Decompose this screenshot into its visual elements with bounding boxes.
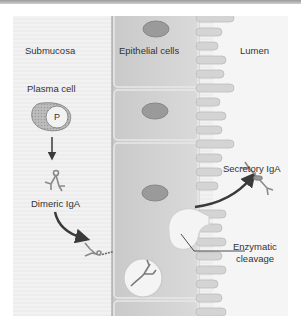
label-plasma-nucleus: P (54, 112, 60, 122)
label-lumen: Lumen (240, 45, 269, 56)
label-dimeric-iga: Dimeric IgA (31, 198, 80, 209)
plasma-cell (32, 103, 71, 131)
label-enzymatic: Enzymatic (233, 241, 277, 252)
nucleus (143, 21, 169, 37)
label-submucosa: Submucosa (25, 45, 75, 56)
label-epithelial-cells: Epithelial cells (119, 45, 179, 56)
top-border (0, 0, 301, 4)
epithelial-cells (112, 16, 234, 316)
label-secretory-iga: Secretory IgA (223, 163, 281, 174)
label-cleavage: cleavage (236, 253, 274, 264)
label-plasma-cell: Plasma cell (27, 83, 76, 94)
dimeric-iga-glyph (45, 171, 65, 192)
diagram-panel: Submucosa Epithelial cells Lumen Plasma … (13, 16, 288, 316)
